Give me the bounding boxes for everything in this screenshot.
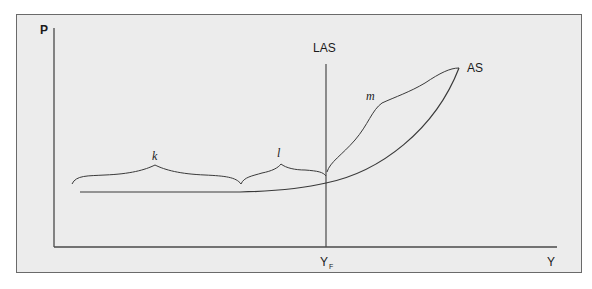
yf-label-subscript: F [329, 263, 333, 270]
as-label: AS [467, 62, 483, 74]
yf-label-main: Y [320, 255, 328, 269]
x-axis-label: Y [547, 256, 555, 268]
las-label: LAS [313, 42, 336, 54]
brace-k [72, 165, 241, 184]
y-axis-label: P [40, 24, 48, 36]
as-curve [80, 68, 459, 192]
range-m-label: m [366, 90, 375, 102]
range-k-label: k [152, 150, 157, 162]
brace-l [241, 164, 326, 184]
brace-m [327, 68, 459, 172]
range-l-label: l [277, 147, 280, 159]
as-las-diagram [0, 0, 592, 289]
yf-label: YF [320, 256, 333, 273]
